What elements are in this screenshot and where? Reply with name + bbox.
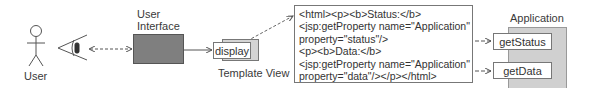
stick-figure-icon bbox=[27, 26, 45, 67]
application-label: Application bbox=[510, 12, 564, 24]
user-interface-label-line1: User bbox=[137, 8, 160, 20]
get-data-method[interactable]: getData bbox=[493, 62, 552, 79]
user-actor-label: User bbox=[24, 70, 47, 82]
jsp-line: property="status"/> bbox=[299, 33, 468, 45]
jsp-line: <html><p><b>Status:</b> bbox=[299, 8, 468, 20]
jsp-line: property="data"/></p></html> bbox=[299, 70, 468, 82]
eye-icon bbox=[58, 35, 87, 60]
get-status-method[interactable]: getStatus bbox=[493, 33, 552, 50]
user-interface-label-line2: Interface bbox=[137, 20, 180, 32]
jsp-template-box: <html><p><b>Status:</b> <jsp:getProperty… bbox=[294, 5, 473, 83]
user-interface-box bbox=[133, 34, 184, 64]
template-view-caption: Template View bbox=[218, 67, 289, 79]
jsp-line: <jsp:getProperty name="Application" bbox=[299, 20, 468, 32]
display-button[interactable]: display bbox=[213, 42, 251, 59]
display-to-template-line bbox=[247, 16, 293, 41]
jsp-line: <jsp:getProperty name="Application" bbox=[299, 58, 468, 70]
jsp-line: <p><b>Data:</b> bbox=[299, 45, 468, 57]
